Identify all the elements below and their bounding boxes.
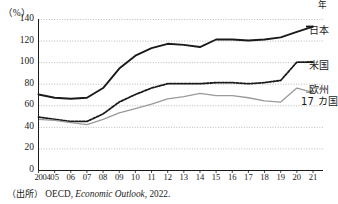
- x-axis-tick-label: 21: [309, 172, 318, 183]
- x-axis-tick-label: 12: [163, 172, 172, 183]
- x-axis-tick-label: 2004: [35, 172, 51, 183]
- x-axis-tick-label: 19: [276, 172, 285, 183]
- x-axis-tick-label: 17: [244, 172, 253, 183]
- x-axis-tick-label: 13: [180, 172, 189, 183]
- x-axis-tick-label: 18: [260, 172, 269, 183]
- series-label-usa: 米国: [309, 60, 330, 72]
- axis-lines-group: [39, 19, 324, 171]
- series-label-europe: 欧州: [309, 84, 330, 96]
- source-suffix: , 2022.: [145, 189, 171, 199]
- series-lines-group: [39, 27, 314, 125]
- x-axis-tick-label: 11: [147, 172, 155, 183]
- series-line-japan: [39, 27, 314, 99]
- series-line-usa: [39, 62, 314, 121]
- x-axis-tick-labels: 20040506070809101112131415161718192021: [0, 172, 335, 186]
- x-axis-tick-label: 20: [293, 172, 302, 183]
- series-label-europe-line2: 17 カ国: [301, 96, 338, 108]
- series-line-europe: [39, 88, 314, 125]
- x-axis-tick-label: 15: [212, 172, 221, 183]
- source-prefix: （出所）: [7, 189, 43, 199]
- x-axis-unit-label: 年: [318, 0, 327, 11]
- x-axis-tick-label: 07: [83, 172, 92, 183]
- x-axis-tick-label: 06: [66, 172, 75, 183]
- x-axis-tick-label: 05: [50, 172, 59, 183]
- source-publication: Economic Outlook: [75, 189, 144, 199]
- x-axis-tick-label: 09: [115, 172, 124, 183]
- x-axis-tick-label: 08: [99, 172, 108, 183]
- source-note: （出所） OECD, Economic Outlook, 2022.: [7, 188, 170, 200]
- x-axis-tick-label: 10: [131, 172, 140, 183]
- series-label-japan: 日本: [309, 25, 330, 37]
- x-axis-tick-label: 14: [196, 172, 205, 183]
- x-axis-tick-label: 16: [228, 172, 237, 183]
- source-body: OECD,: [45, 189, 75, 199]
